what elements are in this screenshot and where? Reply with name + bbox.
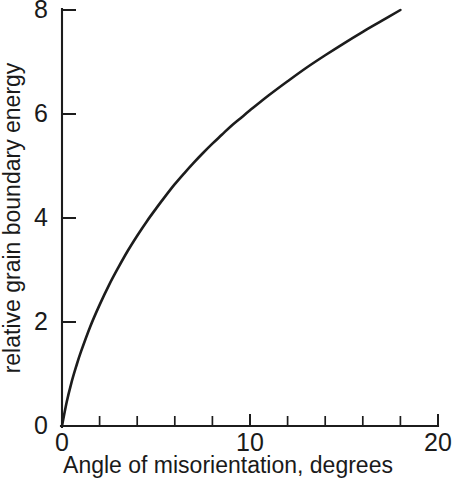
plot-area: relative grain boundary energy	[0, 0, 456, 483]
grain-boundary-energy-curve	[62, 10, 400, 426]
y-tick-label-2: 2	[8, 309, 48, 334]
y-tick-label-4: 4	[8, 205, 48, 230]
y-tick-label-6: 6	[8, 101, 48, 126]
chart-figure: relative grain boundary energy 8 6 4 2 0…	[0, 0, 456, 483]
x-axis-title: Angle of misorientation, degrees	[0, 452, 456, 479]
y-tick-label-8: 8	[8, 0, 48, 22]
